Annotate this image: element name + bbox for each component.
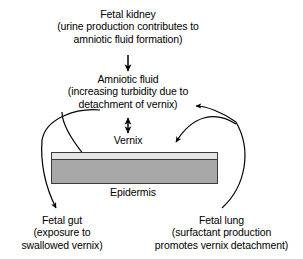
node-fetal-gut: Fetal gut (exposure to swallowed vernix) — [0, 214, 124, 251]
curve-block-to-amniotic-left — [62, 112, 84, 155]
vernix-line-1: Vernix — [88, 134, 168, 146]
node-vernix: Vernix — [88, 134, 168, 146]
amniotic-fluid-line-2: (increasing turbidity due to — [8, 85, 248, 97]
fetal-kidney-line-2: (urine production contributes to — [8, 20, 248, 32]
diagram-canvas: Fetal kidney (urine production contribut… — [0, 0, 303, 259]
epidermis-line-1: Epidermis — [93, 186, 173, 198]
vernix-layer-strip — [52, 153, 217, 160]
fetal-gut-line-1: Fetal gut — [0, 214, 124, 226]
arrow-lung-to-vernix-block — [176, 117, 236, 142]
epidermis-block — [51, 152, 218, 184]
node-fetal-lung: Fetal lung (surfactant production promot… — [140, 214, 303, 251]
fetal-lung-line-1: Fetal lung — [140, 214, 303, 226]
node-amniotic-fluid: Amniotic fluid (increasing turbidity due… — [8, 73, 248, 110]
fetal-lung-line-2: (surfactant production — [140, 226, 303, 238]
fetal-lung-line-3: promotes vernix detachment) — [140, 239, 303, 251]
fetal-kidney-line-3: amniotic fluid formation) — [8, 33, 248, 45]
fetal-gut-line-2: (exposure to — [0, 226, 124, 238]
amniotic-fluid-line-1: Amniotic fluid — [8, 73, 248, 85]
node-epidermis: Epidermis — [93, 186, 173, 198]
curve-fetal-lung-up — [222, 122, 245, 208]
fetal-kidney-line-1: Fetal kidney — [8, 8, 248, 20]
fetal-gut-line-3: swallowed vernix) — [0, 239, 124, 251]
amniotic-fluid-line-3: detachment of vernix) — [8, 98, 248, 110]
node-fetal-kidney: Fetal kidney (urine production contribut… — [8, 8, 248, 45]
